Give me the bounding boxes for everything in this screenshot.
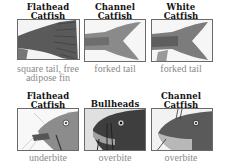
fish-head-icon	[18, 109, 79, 151]
flathead-tail-title: Flathead Catfish	[15, 3, 81, 20]
white-tail-image	[151, 19, 213, 62]
channel-tail-cell: Channel Catfish	[82, 3, 148, 20]
flathead-tail-image	[17, 19, 80, 60]
channel-head-caption: overbite	[148, 153, 214, 162]
flathead-head-cell: Flathead Catfish	[15, 92, 81, 109]
caption-line: adipose fin	[10, 73, 86, 82]
white-tail-title: White Catfish	[148, 3, 214, 20]
white-tail-cell: White Catfish	[148, 3, 214, 20]
channel-head-cell: Channel Catfish	[148, 92, 214, 109]
channel-head-title: Channel Catfish	[148, 92, 214, 109]
channel-tail-title: Channel Catfish	[82, 3, 148, 20]
flathead-head-image	[17, 108, 79, 151]
white-tail-caption: forked tail	[148, 64, 214, 73]
fish-head-icon	[152, 109, 213, 151]
fish-tail-icon	[85, 20, 146, 62]
fish-head-icon	[85, 109, 146, 151]
flathead-head-caption: underbite	[15, 153, 81, 162]
flathead-tail-cell: Flathead Catfish	[15, 3, 81, 20]
bullhead-head-caption: overbite	[82, 153, 148, 162]
bullhead-head-image	[84, 108, 146, 151]
flathead-head-title: Flathead Catfish	[15, 92, 81, 109]
fish-tail-icon	[152, 20, 213, 62]
fish-tail-icon	[18, 20, 80, 60]
channel-tail-caption: forked tail	[82, 64, 148, 73]
flathead-tail-caption: square tail, free adipose fin	[10, 64, 86, 82]
channel-head-image	[151, 108, 213, 151]
channel-tail-image	[84, 19, 146, 62]
